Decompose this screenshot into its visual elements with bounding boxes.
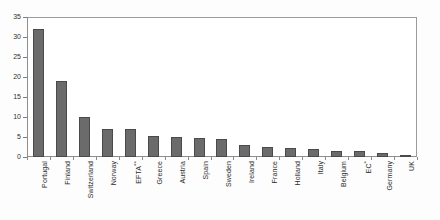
bar-slot — [325, 17, 348, 157]
x-tick-mark — [50, 157, 51, 160]
x-label-slot: Portugal — [27, 161, 50, 219]
y-tick-label: 35 — [13, 13, 21, 20]
bar-slot — [96, 17, 119, 157]
bar-slot — [371, 17, 394, 157]
bar-chart-figure: 05101520253035 PortugalFinlandSwitzerlan… — [0, 0, 440, 220]
bar-slot — [142, 17, 165, 157]
y-tick-label: 30 — [13, 33, 21, 40]
x-tick-label: Finland — [64, 161, 71, 185]
x-label-slot: Greece — [142, 161, 165, 219]
x-label-slot: EFTA** — [119, 161, 142, 219]
x-tick-mark — [279, 157, 280, 160]
x-tick-label: Norway — [110, 161, 117, 185]
x-tick-mark — [188, 157, 189, 160]
bar-slot — [233, 17, 256, 157]
x-tick-label: UK — [408, 161, 415, 171]
x-tick-mark — [371, 157, 372, 160]
bar — [171, 137, 182, 157]
bar — [56, 81, 67, 157]
bar-slot — [302, 17, 325, 157]
x-tick-label: Germany — [386, 161, 393, 191]
x-tick-mark — [211, 157, 212, 160]
bar-slot — [348, 17, 371, 157]
x-axis-labels: PortugalFinlandSwitzerlandNorwayEFTA**Gr… — [27, 161, 417, 219]
x-label-slot: Belgium — [325, 161, 348, 219]
y-axis: 05101520253035 — [0, 0, 27, 220]
y-tick-label: 10 — [13, 113, 21, 120]
x-label-slot: Norway — [96, 161, 119, 219]
bar — [33, 29, 44, 157]
x-label-slot: Holland — [279, 161, 302, 219]
x-tick-label: France — [271, 161, 278, 183]
bar — [102, 129, 113, 157]
bar — [262, 147, 273, 157]
x-label-slot: France — [256, 161, 279, 219]
x-tick-mark — [27, 157, 28, 160]
x-label-slot: Austria — [165, 161, 188, 219]
bar-slot — [279, 17, 302, 157]
bar — [194, 138, 205, 157]
bar-slot — [50, 17, 73, 157]
x-tick-label: Italy — [317, 161, 324, 174]
x-tick-mark — [348, 157, 349, 160]
y-tick-label: 0 — [17, 153, 21, 160]
y-tick-label: 20 — [13, 73, 21, 80]
x-label-slot: UK — [394, 161, 417, 219]
x-tick-mark — [302, 157, 303, 160]
bar — [308, 149, 319, 157]
x-tick-mark — [119, 157, 120, 160]
x-tick-mark — [394, 157, 395, 160]
x-tick-mark — [96, 157, 97, 160]
x-label-slot: Finland — [50, 161, 73, 219]
x-tick-label: Austria — [179, 161, 186, 184]
x-tick-label: Sweden — [225, 161, 232, 187]
x-label-slot: Switzerland — [73, 161, 96, 219]
x-tick-label: Portugal — [41, 161, 48, 188]
x-label-slot: Ireland — [233, 161, 256, 219]
x-tick-label: Spain — [202, 161, 209, 179]
x-label-slot: Sweden — [211, 161, 234, 219]
bars-container — [27, 17, 417, 157]
x-label-slot: Italy — [302, 161, 325, 219]
x-tick-label: Switzerland — [87, 161, 94, 198]
x-label-slot: EC* — [348, 161, 371, 219]
x-label-slot: Spain — [188, 161, 211, 219]
x-tick-label: Ireland — [248, 161, 255, 183]
bar-slot — [119, 17, 142, 157]
bar — [125, 129, 136, 157]
x-tick-mark — [165, 157, 166, 160]
footnote-marker: ** — [133, 161, 139, 166]
x-tick-label: Holland — [294, 161, 301, 185]
y-tick-label: 25 — [13, 53, 21, 60]
x-tick-mark — [73, 157, 74, 160]
x-label-slot: Germany — [371, 161, 394, 219]
x-tick-mark — [142, 157, 143, 160]
x-tick-label: Belgium — [340, 161, 347, 187]
bar-slot — [211, 17, 234, 157]
footnote-marker: * — [363, 161, 369, 163]
bar — [285, 148, 296, 157]
y-tick-label: 5 — [17, 133, 21, 140]
bar-slot — [27, 17, 50, 157]
x-tick-mark — [256, 157, 257, 160]
y-tick-label: 15 — [13, 93, 21, 100]
bar — [239, 145, 250, 157]
x-tick-mark — [233, 157, 234, 160]
bar — [148, 136, 159, 157]
bar-slot — [256, 17, 279, 157]
bar — [216, 139, 227, 157]
x-tick-label: Greece — [156, 161, 163, 185]
bar — [79, 117, 90, 157]
bar-slot — [394, 17, 417, 157]
x-tick-mark — [325, 157, 326, 160]
bar-slot — [165, 17, 188, 157]
bar-slot — [188, 17, 211, 157]
x-tick-mark — [417, 157, 418, 160]
bar-slot — [73, 17, 96, 157]
